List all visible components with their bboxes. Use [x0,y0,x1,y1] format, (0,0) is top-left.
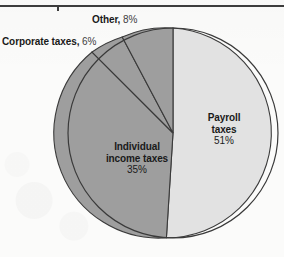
pie-label-individual-income-taxes-line1: Individual [86,141,188,153]
pie-callout-corporate-taxes-percent: 6% [82,36,96,47]
pie-chart: Payroll taxes 51% Individual income taxe… [0,0,284,257]
pie-label-payroll-taxes-line2: taxes [188,124,260,136]
pie-label-payroll-taxes: Payroll taxes 51% [188,112,260,147]
pie-label-individual-income-taxes-line2: income taxes [86,153,188,165]
pie-label-payroll-taxes-line1: Payroll [188,112,260,124]
pie-callout-other-percent: 8% [123,14,137,25]
pie-callout-other-name: Other, [92,14,120,25]
pie-callout-other: Other, 8% [92,14,137,25]
pie-label-payroll-taxes-percent: 51% [188,135,260,147]
pie-label-individual-income-taxes: Individual income taxes 35% [86,141,188,176]
pie-chart-page: Payroll taxes 51% Individual income taxe… [0,0,284,257]
pie-callout-corporate-taxes: Corporate taxes, 6% [2,36,96,47]
pie-callout-corporate-taxes-name: Corporate taxes, [2,36,79,47]
pie-label-individual-income-taxes-percent: 35% [86,164,188,176]
